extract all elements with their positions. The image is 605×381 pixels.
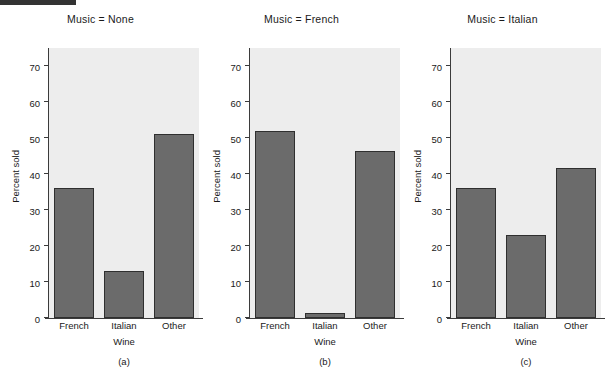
y-tick-mark xyxy=(446,101,450,102)
bar-french xyxy=(456,188,496,318)
y-tick-mark xyxy=(44,317,48,318)
bar-french xyxy=(255,131,295,318)
x-tick-label: Italian xyxy=(300,320,350,331)
x-tick-label: French xyxy=(451,320,501,331)
y-tick-mark xyxy=(245,65,249,66)
y-tick-mark xyxy=(446,245,450,246)
x-axis-label: Wine xyxy=(49,336,199,347)
y-tick-mark xyxy=(446,317,450,318)
bar-french xyxy=(54,188,94,318)
y-tick-label: 30 xyxy=(431,206,442,217)
x-axis-ticks: FrenchItalianOther xyxy=(250,320,400,331)
y-tick-mark xyxy=(245,137,249,138)
bar-series xyxy=(49,48,199,318)
x-axis-label: Wine xyxy=(451,336,601,347)
bar-other xyxy=(355,151,395,318)
panel-title: Music = French xyxy=(201,13,402,25)
bar-slot-italian xyxy=(300,48,350,318)
x-axis-ticks: FrenchItalianOther xyxy=(49,320,199,331)
y-tick-mark xyxy=(245,281,249,282)
y-axis-label: Percent sold xyxy=(10,150,22,203)
x-axis-ticks: FrenchItalianOther xyxy=(451,320,601,331)
x-tick-label: Other xyxy=(350,320,400,331)
y-tick-label: 10 xyxy=(29,278,40,289)
y-tick-mark xyxy=(44,101,48,102)
panel-title: Music = Italian xyxy=(402,13,603,25)
x-axis-label: Wine xyxy=(250,336,400,347)
y-tick-label: 70 xyxy=(431,62,442,73)
panel-caption: (a) xyxy=(49,356,199,367)
y-tick-label: 70 xyxy=(230,62,241,73)
x-tick-label: Other xyxy=(149,320,199,331)
panel-caption: (b) xyxy=(250,356,400,367)
y-tick-mark xyxy=(245,317,249,318)
panel-caption: (c) xyxy=(451,356,601,367)
y-tick-label: 10 xyxy=(431,278,442,289)
y-tick-mark xyxy=(44,245,48,246)
y-tick-label: 50 xyxy=(431,134,442,145)
y-tick-label: 0 xyxy=(236,314,241,325)
bar-slot-italian xyxy=(99,48,149,318)
x-tick-label: Other xyxy=(551,320,601,331)
y-tick-label: 30 xyxy=(29,206,40,217)
bar-slot-italian xyxy=(501,48,551,318)
chart-panel-a: Music = NonePercent sold010203040506070F… xyxy=(0,0,201,381)
bar-slot-other xyxy=(350,48,400,318)
y-tick-label: 60 xyxy=(230,98,241,109)
bar-italian xyxy=(506,235,546,318)
x-tick-label: French xyxy=(49,320,99,331)
y-tick-mark xyxy=(446,209,450,210)
bar-slot-french xyxy=(49,48,99,318)
y-tick-mark xyxy=(44,281,48,282)
y-tick-mark xyxy=(245,209,249,210)
bar-series xyxy=(250,48,400,318)
bar-series xyxy=(451,48,601,318)
bar-italian xyxy=(305,313,345,318)
y-tick-mark xyxy=(44,65,48,66)
y-tick-mark xyxy=(446,281,450,282)
plot-area: 010203040506070 xyxy=(49,48,199,318)
y-tick-mark xyxy=(245,245,249,246)
y-tick-label: 40 xyxy=(230,170,241,181)
y-tick-mark xyxy=(446,137,450,138)
bar-slot-other xyxy=(149,48,199,318)
plot-area: 010203040506070 xyxy=(451,48,601,318)
bar-slot-other xyxy=(551,48,601,318)
plot-area: 010203040506070 xyxy=(250,48,400,318)
y-tick-mark xyxy=(44,137,48,138)
y-tick-label: 50 xyxy=(29,134,40,145)
chart-panel-c: Music = ItalianPercent sold0102030405060… xyxy=(402,0,603,381)
bar-slot-french xyxy=(451,48,501,318)
y-tick-label: 60 xyxy=(431,98,442,109)
y-tick-label: 0 xyxy=(35,314,40,325)
y-tick-label: 70 xyxy=(29,62,40,73)
bar-italian xyxy=(104,271,144,318)
y-tick-label: 10 xyxy=(230,278,241,289)
y-tick-mark xyxy=(245,101,249,102)
x-tick-label: French xyxy=(250,320,300,331)
y-tick-label: 20 xyxy=(230,242,241,253)
y-tick-label: 20 xyxy=(29,242,40,253)
bar-other xyxy=(556,168,596,318)
bar-slot-french xyxy=(250,48,300,318)
y-tick-label: 0 xyxy=(437,314,442,325)
y-tick-label: 40 xyxy=(431,170,442,181)
y-tick-label: 20 xyxy=(431,242,442,253)
x-tick-label: Italian xyxy=(501,320,551,331)
bar-other xyxy=(154,134,194,318)
chart-panel-b: Music = FrenchPercent sold01020304050607… xyxy=(201,0,402,381)
y-tick-mark xyxy=(446,173,450,174)
x-axis-line xyxy=(246,318,404,319)
x-tick-label: Italian xyxy=(99,320,149,331)
y-tick-label: 30 xyxy=(230,206,241,217)
y-tick-mark xyxy=(446,65,450,66)
y-tick-mark xyxy=(44,209,48,210)
y-axis-label: Percent sold xyxy=(412,150,424,203)
x-axis-line xyxy=(447,318,605,319)
panel-title: Music = None xyxy=(0,13,201,25)
x-axis-line xyxy=(45,318,203,319)
y-tick-label: 50 xyxy=(230,134,241,145)
y-tick-mark xyxy=(245,173,249,174)
